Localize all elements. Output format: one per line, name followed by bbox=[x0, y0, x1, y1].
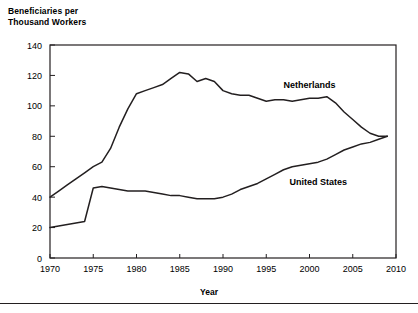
y-tick-label: 80 bbox=[32, 132, 42, 142]
x-tick-label: 1980 bbox=[126, 264, 146, 274]
x-tick-label: 1975 bbox=[83, 264, 103, 274]
x-tick-label: 1970 bbox=[40, 264, 60, 274]
x-tick-label: 1985 bbox=[170, 264, 190, 274]
y-tick-label: 60 bbox=[32, 162, 42, 172]
x-tick-label: 2010 bbox=[386, 264, 406, 274]
x-tick-label: 1995 bbox=[256, 264, 276, 274]
x-axis-ticks: 197019751980198519901995200020052010 bbox=[40, 254, 406, 274]
line-chart: 197019751980198519901995200020052010 020… bbox=[0, 0, 418, 313]
series-label-united-states: United States bbox=[289, 177, 347, 187]
y-tick-label: 120 bbox=[27, 71, 42, 81]
y-axis-ticks: 020406080100120140 bbox=[27, 41, 55, 264]
series-label-netherlands: Netherlands bbox=[283, 80, 335, 90]
series-labels: NetherlandsUnited States bbox=[283, 80, 346, 187]
y-tick-label: 0 bbox=[37, 254, 42, 264]
y-tick-label: 20 bbox=[32, 223, 42, 233]
plot-frame bbox=[50, 45, 396, 258]
y-tick-label: 100 bbox=[27, 101, 42, 111]
series-paths bbox=[50, 72, 387, 227]
y-tick-label: 40 bbox=[32, 193, 42, 203]
x-tick-label: 1990 bbox=[213, 264, 233, 274]
x-axis-title: Year bbox=[0, 287, 418, 297]
y-tick-label: 140 bbox=[27, 41, 42, 51]
x-tick-label: 2000 bbox=[299, 264, 319, 274]
bottom-rule bbox=[0, 303, 418, 304]
x-tick-label: 2005 bbox=[343, 264, 363, 274]
